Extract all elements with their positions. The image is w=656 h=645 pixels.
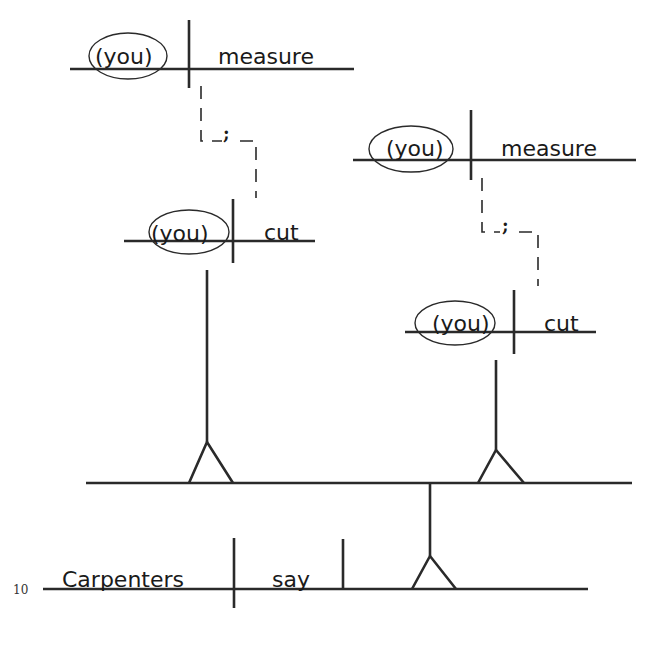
pedestal-foot bbox=[412, 556, 456, 589]
right-conjunction-connector: ; bbox=[482, 178, 538, 286]
right-clause-1: (you) measure bbox=[353, 110, 636, 180]
verb-word: measure bbox=[501, 136, 597, 161]
line-number: 10 bbox=[13, 583, 28, 597]
left-pedestal bbox=[189, 270, 233, 483]
main-clause: 10 Carpenters say bbox=[13, 538, 588, 608]
pedestal-foot bbox=[189, 442, 233, 483]
dashed-line bbox=[201, 86, 222, 141]
verb-word: cut bbox=[264, 220, 299, 245]
conjunction-semicolon: ; bbox=[223, 123, 230, 144]
verb-word: cut bbox=[544, 311, 579, 336]
dashed-line bbox=[519, 232, 538, 286]
subject-word: (you) bbox=[95, 44, 153, 69]
pedestal-foot bbox=[478, 450, 524, 483]
subject-word: (you) bbox=[386, 136, 444, 161]
left-clause-2: (you) cut bbox=[124, 199, 315, 263]
subject-word: (you) bbox=[151, 221, 209, 246]
dashed-line bbox=[482, 178, 500, 232]
dashed-line bbox=[240, 141, 256, 198]
subject-word: (you) bbox=[432, 311, 490, 336]
verb-word: say bbox=[272, 567, 310, 592]
conjunction-semicolon: ; bbox=[502, 215, 509, 236]
verb-word: measure bbox=[218, 44, 314, 69]
subject-word: Carpenters bbox=[62, 567, 184, 592]
left-conjunction-connector: ; bbox=[201, 86, 256, 198]
right-clause-2: (you) cut bbox=[405, 290, 596, 354]
right-pedestal bbox=[478, 360, 524, 483]
object-pedestal bbox=[412, 483, 456, 589]
left-clause-1: (you) measure bbox=[70, 20, 354, 88]
sentence-diagram: (you) measure ; (you) cut (you) measure … bbox=[0, 0, 656, 645]
